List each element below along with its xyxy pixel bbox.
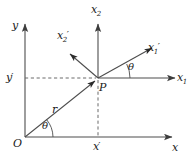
x1-prime-axis-label: x1′ xyxy=(148,42,161,53)
point-p-label: P xyxy=(99,82,106,93)
x1-prime-axis-line xyxy=(98,48,152,78)
x1-axis-label: x1 xyxy=(177,72,188,83)
radius-vector-r xyxy=(25,81,95,137)
y-prime-label-mark: ′ xyxy=(11,71,13,82)
x1-axis-label-subscript: 1 xyxy=(183,78,187,86)
x2-prime-axis-label: x2′ xyxy=(57,30,70,41)
x2-axis-label-subscript: 2 xyxy=(97,10,101,18)
coordinate-transformation-figure: y x2 x2′ x1′ x1 θ y′ P r θ O x′ x xyxy=(0,0,190,164)
y-prime-label: y′ xyxy=(6,72,15,83)
theta-label-point: θ xyxy=(128,62,134,72)
x-prime-label-mark: ′ xyxy=(98,140,100,151)
x-prime-label: x′ xyxy=(93,141,102,152)
x2-prime-axis-line xyxy=(70,54,98,78)
y-axis-label: y xyxy=(12,20,18,31)
x-axis-label: x xyxy=(172,142,178,153)
x2-prime-label-mark: ′ xyxy=(67,29,69,40)
origin-label: O xyxy=(13,138,22,149)
theta-label-origin: θ xyxy=(42,121,48,131)
x2-axis-label: x2 xyxy=(91,4,102,15)
radius-label: r xyxy=(52,104,57,115)
x1-prime-label-mark: ′ xyxy=(158,41,160,52)
